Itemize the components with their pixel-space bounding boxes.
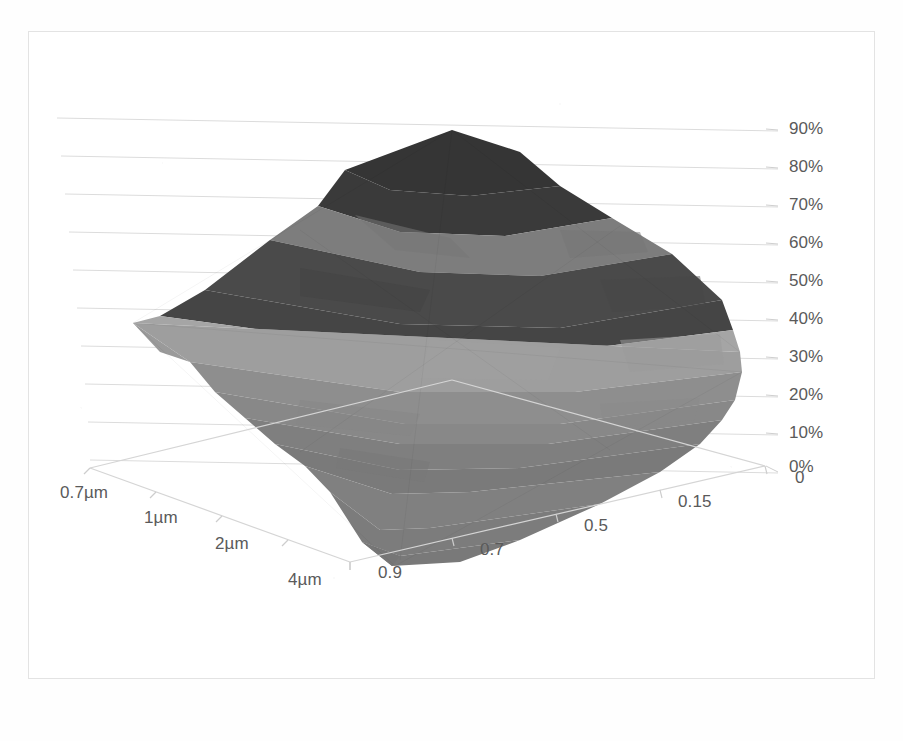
surface-chart-svg bbox=[0, 0, 903, 741]
x-tick-label-0.9: 0.9 bbox=[378, 563, 402, 583]
x-tick-label-0.5: 0.5 bbox=[584, 516, 608, 536]
x-tick-label-0.15: 0.15 bbox=[678, 492, 712, 512]
y-tick-label-0.7um: 0.7µm bbox=[60, 483, 108, 503]
z-tick-label-50: 50% bbox=[789, 271, 823, 291]
chart-root: 90% 80% 70% 60% 50% 40% 30% 20% 10% 0% 0… bbox=[0, 0, 903, 741]
y-axis-ticks bbox=[84, 468, 350, 570]
z-tick-label-90: 90% bbox=[789, 119, 823, 139]
y-tick-label-4um: 4µm bbox=[288, 570, 322, 590]
x-tick-label-0.7: 0.7 bbox=[480, 540, 504, 560]
gridline-90 bbox=[57, 118, 778, 131]
z-tick-label-10: 10% bbox=[789, 423, 823, 443]
y-tick-label-1um: 1µm bbox=[144, 508, 178, 528]
z-tick-label-40: 40% bbox=[789, 309, 823, 329]
z-axis-ticks bbox=[766, 129, 778, 472]
y-tick-label-2um: 2µm bbox=[215, 534, 249, 554]
z-tick-label-20: 20% bbox=[789, 385, 823, 405]
z-tick-label-60: 60% bbox=[789, 233, 823, 253]
z-tick-label-80: 80% bbox=[789, 157, 823, 177]
z-tick-label-70: 70% bbox=[789, 195, 823, 215]
z-tick-label-30: 30% bbox=[789, 347, 823, 367]
x-tick-label-0: 0 bbox=[795, 468, 805, 488]
